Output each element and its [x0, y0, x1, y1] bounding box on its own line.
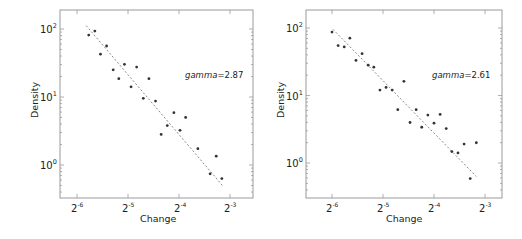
data-point [457, 151, 460, 154]
data-point [403, 80, 406, 83]
right-x-axis-label: Change [386, 213, 423, 224]
figure-canvas: gamma=2.87 102 101 100 2-6 2-5 2-4 2-3 C… [0, 0, 522, 239]
right-gamma-value: =2.61 [464, 70, 490, 80]
right-xtick-2e-4: 2-4 [428, 201, 441, 214]
left-xtick-2e-3: 2-3 [224, 201, 237, 214]
left-plot-frame [60, 10, 253, 198]
data-point [105, 45, 108, 48]
data-point [160, 133, 163, 136]
data-point [391, 89, 394, 92]
data-point [367, 64, 370, 67]
data-point [348, 37, 351, 40]
data-point [361, 52, 364, 55]
data-point [420, 126, 423, 129]
data-point [475, 141, 478, 144]
right-y-tick-labels: 102 101 100 [286, 21, 303, 169]
data-point [433, 122, 436, 125]
left-xtick-2e-5: 2-5 [122, 201, 135, 214]
right-xtick-2e-3: 2-3 [479, 201, 492, 214]
left-gamma-value: =2.87 [217, 70, 243, 80]
data-point [331, 31, 334, 34]
data-point [396, 108, 399, 111]
data-point [99, 53, 102, 56]
left-xtick-2e-6: 2-6 [71, 201, 84, 214]
data-point [154, 100, 157, 103]
data-point [135, 66, 138, 69]
data-point [343, 46, 346, 49]
right-panel: gamma=2.61 102 101 100 2-6 2-5 2-4 2-3 C… [275, 10, 502, 224]
left-ytick-100: 102 [40, 22, 57, 35]
data-point [123, 63, 126, 66]
left-y-tick-labels: 102 101 100 [40, 22, 57, 171]
data-point [426, 114, 429, 117]
data-point [179, 129, 182, 132]
right-xtick-2e-6: 2-6 [326, 201, 339, 214]
right-ytick-100: 102 [286, 21, 303, 34]
data-point [439, 113, 442, 116]
data-point [209, 172, 212, 175]
data-point [166, 124, 169, 127]
data-point [409, 121, 412, 124]
data-point [450, 150, 453, 153]
data-point [142, 97, 145, 100]
left-x-axis-label: Change [140, 213, 177, 224]
left-panel: gamma=2.87 102 101 100 2-6 2-5 2-4 2-3 C… [29, 10, 253, 224]
data-point [372, 66, 375, 69]
data-point [173, 111, 176, 114]
data-point [379, 89, 382, 92]
data-point [385, 86, 388, 89]
data-point [87, 34, 90, 37]
data-point [337, 44, 340, 47]
data-point [184, 116, 187, 119]
figure: gamma=2.87 102 101 100 2-6 2-5 2-4 2-3 C… [0, 0, 522, 239]
left-gamma-label: gamma [185, 70, 217, 80]
right-y-axis-label: Density [275, 82, 286, 118]
data-point [215, 155, 218, 158]
right-gamma-annotation: gamma=2.61 [432, 70, 490, 80]
data-point [112, 68, 115, 71]
left-ytick-1: 100 [40, 158, 57, 171]
right-ytick-10: 101 [286, 89, 303, 102]
data-point [445, 127, 448, 130]
data-point [196, 147, 199, 150]
left-ytick-10: 101 [40, 90, 57, 103]
data-point [415, 108, 418, 111]
right-gamma-label: gamma [432, 70, 464, 80]
data-point [130, 85, 133, 88]
right-plot-frame [306, 10, 502, 198]
left-y-axis-label: Density [29, 82, 40, 118]
left-gamma-annotation: gamma=2.87 [185, 70, 243, 80]
data-point [117, 77, 120, 80]
data-point [463, 143, 466, 146]
data-point [220, 177, 223, 180]
data-point [93, 30, 96, 33]
data-point [148, 77, 151, 80]
data-point [355, 59, 358, 62]
right-ytick-1: 100 [286, 156, 303, 169]
data-point [469, 177, 472, 180]
